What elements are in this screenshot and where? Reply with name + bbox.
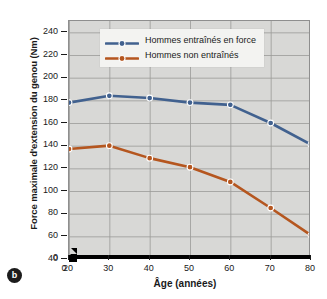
data-point	[268, 205, 274, 211]
y-tick-mark	[61, 235, 67, 236]
y-tick-mark	[61, 145, 67, 146]
data-point	[227, 102, 233, 108]
x-tick-label: 20	[53, 263, 83, 273]
y-tick-label: 140	[32, 140, 58, 149]
y-tick-label: 220	[32, 50, 58, 59]
y-tick-label: 40	[32, 254, 58, 263]
x-tick-label: 40	[134, 263, 164, 273]
x-tick-mark	[270, 255, 271, 260]
legend-label: Hommes non entraînés	[145, 50, 239, 61]
x-tick-mark	[189, 255, 190, 260]
data-series-layer	[69, 93, 310, 238]
data-point	[69, 100, 72, 106]
x-tick-mark	[149, 255, 150, 260]
y-tick-mark	[61, 190, 67, 191]
x-tick-mark	[310, 255, 311, 260]
x-tick-label: 50	[174, 263, 204, 273]
x-tick-label: 70	[255, 263, 285, 273]
y-tick-mark	[61, 77, 67, 78]
data-point	[147, 95, 153, 101]
y-tick-mark	[61, 213, 67, 214]
data-point	[227, 179, 233, 185]
y-tick-label: 240	[32, 27, 58, 36]
x-tick-label: 60	[214, 263, 244, 273]
x-tick-label: 30	[93, 263, 123, 273]
chart-legend: Hommes entraînés en forceHommes non entr…	[100, 29, 264, 67]
data-point	[187, 164, 193, 170]
data-point	[106, 93, 112, 99]
series-line-1	[69, 146, 310, 236]
legend-marker-icon	[105, 50, 139, 61]
y-tick-mark	[61, 122, 67, 123]
y-tick-label: 180	[32, 95, 58, 104]
data-point	[308, 232, 310, 238]
y-tick-label: 200	[32, 72, 58, 81]
x-tick-mark	[108, 255, 109, 260]
legend-entry-1[interactable]: Hommes non entraînés	[105, 48, 256, 63]
y-axis-tick-labels: 0406080100120140160180200220240	[32, 0, 58, 299]
x-tick-mark	[68, 255, 69, 260]
x-tick-mark	[229, 255, 230, 260]
y-tick-mark	[61, 99, 67, 100]
y-tick-label: 120	[32, 163, 58, 172]
legend-label: Hommes entraînés en force	[145, 35, 256, 46]
x-tick-label: 80	[295, 263, 325, 273]
legend-marker-icon	[105, 35, 139, 46]
y-tick-label: 160	[32, 118, 58, 127]
data-point	[106, 143, 112, 149]
y-tick-label: 80	[32, 208, 58, 217]
data-point	[147, 155, 153, 161]
x-axis-title: Âge (années)	[60, 278, 310, 289]
data-point	[308, 142, 310, 148]
y-tick-mark	[61, 54, 67, 55]
data-point	[187, 100, 193, 106]
data-point	[69, 146, 72, 152]
y-tick-label: 100	[32, 186, 58, 195]
y-tick-mark	[61, 167, 67, 168]
panel-badge: b	[7, 268, 22, 283]
y-tick-label: 60	[32, 231, 58, 240]
legend-entry-0[interactable]: Hommes entraînés en force	[105, 33, 256, 48]
data-point	[268, 120, 274, 126]
y-tick-mark	[61, 31, 67, 32]
figure-panel-b: Force maximale d'extension du genou (Nm)…	[0, 0, 327, 299]
